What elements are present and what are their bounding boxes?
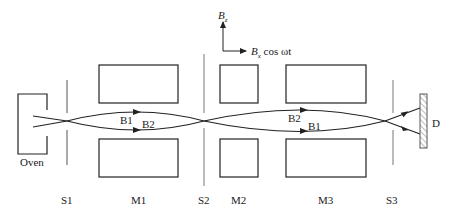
magnet1-label: M1 [131, 194, 146, 206]
slit1-label: S1 [61, 194, 73, 206]
magnet-m1 [99, 65, 178, 177]
bz-label: Bz [218, 9, 228, 24]
slit3-label: S3 [386, 194, 398, 206]
oven [18, 94, 47, 154]
beam-label-m1-upper: B1 [120, 114, 133, 126]
bx-label: Bx cos ωt [251, 45, 291, 60]
diagram-canvas: Bz Bx cos ωt [0, 0, 453, 216]
magnet-m2 [220, 65, 258, 177]
arrow-icon [300, 128, 308, 134]
detector-label: D [432, 117, 440, 129]
oven-label: Oven [20, 156, 44, 168]
magnet3-label: M3 [318, 194, 334, 206]
slit2-label: S2 [198, 194, 210, 206]
arrow-icon [401, 126, 409, 131]
beam-apparatus-diagram: Bz Bx cos ωt [0, 0, 453, 216]
arrow-icon [133, 109, 141, 115]
beam-label-m3-lower: B1 [308, 120, 321, 132]
beam-paths [33, 108, 420, 134]
arrow-icon [300, 107, 308, 113]
detector [420, 94, 427, 148]
magnet2-label: M2 [231, 194, 246, 206]
field-axes: Bz Bx cos ωt [218, 9, 291, 60]
beam-label-m3-upper: B2 [288, 112, 301, 124]
arrow-icon [133, 127, 141, 133]
beam-label-m1-lower: B2 [142, 118, 155, 130]
